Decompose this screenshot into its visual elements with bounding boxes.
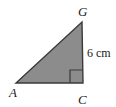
vertex-label-g: G bbox=[78, 4, 88, 19]
vertex-label-a: A bbox=[8, 85, 17, 100]
geometry-figure: A C G 6 cm bbox=[0, 0, 116, 107]
vertex-label-c: C bbox=[78, 92, 87, 107]
side-length-label-gc: 6 cm bbox=[87, 46, 111, 60]
triangle-diagram-svg: A C G 6 cm bbox=[0, 0, 116, 107]
